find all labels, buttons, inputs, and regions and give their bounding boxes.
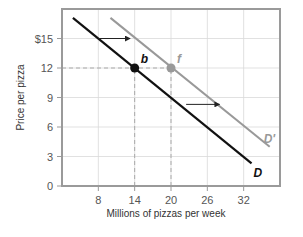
- point-f: [167, 64, 176, 73]
- curve-label: D: [254, 166, 263, 180]
- y-tick-label: 0: [47, 180, 53, 192]
- point-b: [130, 64, 139, 73]
- x-tick-label: 14: [129, 194, 141, 206]
- x-tick-label: 8: [95, 194, 101, 206]
- y-axis-title: Price per pizza: [15, 64, 26, 131]
- y-tick-label: 12: [41, 62, 53, 74]
- demand-curves: DD': [73, 18, 276, 181]
- y-tick-label: 3: [47, 151, 53, 163]
- y-tick-label: 9: [47, 92, 53, 104]
- x-axis-title: Millions of pizzas per week: [107, 208, 227, 219]
- y-tick-label: $15: [35, 33, 53, 45]
- curve-label: D': [264, 132, 277, 146]
- x-axis-ticks: 814202632: [95, 186, 250, 206]
- y-tick-label: 6: [47, 121, 53, 133]
- x-tick-label: 32: [238, 194, 250, 206]
- demand-shift-chart: 036912$15 814202632 DD' bf Millions of p…: [0, 0, 303, 237]
- point-label-b: b: [141, 52, 148, 66]
- shift-arrows: [98, 39, 219, 105]
- x-tick-label: 26: [201, 194, 213, 206]
- x-tick-label: 20: [165, 194, 177, 206]
- y-axis-ticks: 036912$15: [35, 33, 62, 193]
- point-label-f: f: [177, 52, 182, 66]
- curve-demand: [73, 18, 252, 164]
